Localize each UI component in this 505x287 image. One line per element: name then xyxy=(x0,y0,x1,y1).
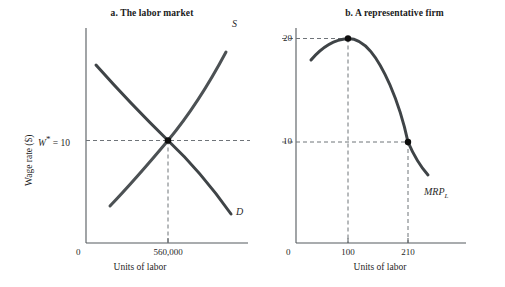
panel-b-ytick-label-0: 20 xyxy=(268,33,292,43)
panel-b-origin-label: 0 xyxy=(286,247,291,257)
mrp-employment-marker xyxy=(405,139,411,145)
mrp-curve xyxy=(311,39,428,176)
equilibrium-wage-star: * xyxy=(46,134,51,144)
mrp-curve-label-subscript: L xyxy=(445,192,449,200)
mrp-curve-label: MRPL xyxy=(424,186,448,200)
mrp-curve-label-text: MRP xyxy=(424,186,445,197)
equilibrium-marker xyxy=(165,137,172,144)
panel-b-ytick-label-1: 10 xyxy=(268,136,292,146)
equilibrium-wage-label: W* = 10 xyxy=(38,134,70,148)
panel-labor-market: a. The labor market Wage rate ($) W* = 1… xyxy=(0,0,262,287)
panel-b-plot xyxy=(262,0,505,287)
demand-curve xyxy=(96,65,231,214)
supply-curve-label: S xyxy=(232,18,237,29)
panel-a-origin-label: 0 xyxy=(76,247,81,257)
demand-curve-label: D xyxy=(236,206,243,217)
panel-a-xtick-label-0: 560,000 xyxy=(143,247,193,257)
panel-b-xtick-label-0: 100 xyxy=(330,247,366,257)
panel-representative-firm: b. A representative firm 20 10 MR xyxy=(262,0,505,287)
panel-a-y-axis-label: Wage rate ($) xyxy=(24,135,34,186)
panel-b-xtick-label-1: 210 xyxy=(390,247,426,257)
equilibrium-wage-value: = 10 xyxy=(53,138,70,148)
equilibrium-wage-symbol: W xyxy=(38,138,46,148)
panel-a-x-axis-label: Units of labor xyxy=(114,262,167,272)
economics-figure: a. The labor market Wage rate ($) W* = 1… xyxy=(0,0,505,287)
panel-b-x-axis-label: Units of labor xyxy=(354,262,407,272)
mrp-peak-marker xyxy=(345,35,351,41)
